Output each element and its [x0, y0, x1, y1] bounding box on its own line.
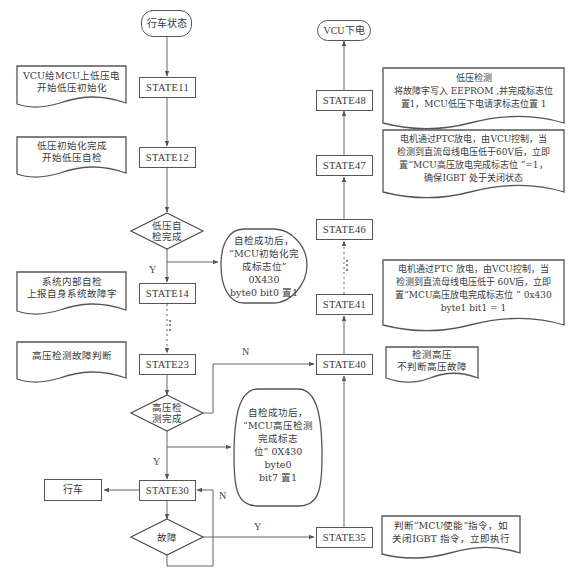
edge-label-fault-no: N [219, 490, 226, 501]
note-state47-line3: 置“MCU高压放电完成标志位 ”=1， [399, 159, 547, 172]
decision-fault: 故障 [137, 519, 197, 555]
state-47-label: STATE47 [323, 160, 366, 172]
drive-box: 行车 [44, 479, 102, 501]
end-terminal: VCU下电 [317, 20, 371, 41]
state-23: STATE23 [139, 354, 196, 375]
state-30-label: STATE30 [146, 485, 189, 497]
edge-label-fault-yes: Y [254, 521, 261, 532]
note-hv-line5: bit7 置1 [259, 471, 297, 484]
note-state41-line1: 电机通过PTC 放电，由VCU控制，当 [398, 263, 549, 276]
state-48-label: STATE48 [323, 95, 366, 107]
start-label: 行车状态 [147, 18, 187, 30]
state-30: STATE30 [139, 480, 196, 501]
note-lv-line1: 自检成功后， [234, 234, 294, 247]
note-hv-line2: “MCU高压检测 [243, 419, 313, 432]
edge-label-hv-no: N [242, 346, 249, 357]
note-state23: 高压检测故障判断 [17, 342, 126, 370]
note-state14-line1: 系统内部自检 [42, 276, 102, 288]
note-state35: 判断“MCU使能”指令，如 关闭IGBT 指令，立即执行 [382, 516, 520, 548]
note-state11: VCU给MCU上低压电 开始低压初始化 [17, 66, 126, 98]
state-35: STATE35 [316, 527, 373, 548]
decision-hv-line2: 测完成 [152, 413, 182, 424]
drive-label: 行车 [63, 484, 83, 496]
note-state14: 系统内部自检 上报自身系统故障字 [17, 272, 126, 304]
state-11-label: STATE11 [146, 82, 189, 94]
state-40: STATE40 [316, 354, 373, 375]
note-lv-line4: byte0 bit0 置1 [230, 286, 298, 299]
note-state35-line1: 判断“MCU使能”指令，如 [394, 519, 509, 532]
note-state47-line2: 检测到直流母线电压低于60V后，立即 [397, 146, 550, 159]
note-state14-line2: 上报自身系统故障字 [27, 288, 117, 300]
end-label: VCU下电 [323, 25, 364, 37]
note-state12: 低压初始化完成 开始低压自检 [17, 137, 126, 167]
note-lv-success: 自检成功后， “MCU初始化完 成标志位” 0X430 byte0 bit0 置… [221, 232, 307, 300]
state-14-label: STATE14 [146, 288, 189, 300]
right-ellipsis: ⋮ [341, 258, 353, 273]
note-hv-line3: 完成标志 [258, 432, 298, 445]
state-11: STATE11 [139, 77, 196, 98]
note-state11-line2: 开始低压初始化 [37, 82, 107, 94]
note-state40: 检测高压 不判断高压故障 [386, 347, 478, 375]
note-state48-line3: 置1，MCU低压下电请求标志位置 1 [401, 98, 547, 111]
state-47: STATE47 [316, 155, 373, 176]
note-state48-line2: 将故障字写入 EEPROM ,并完成标志位 [394, 85, 553, 98]
decision-lv-line2: 检完成 [152, 231, 182, 242]
decision-hv-check: 高压检 测完成 [137, 395, 197, 431]
note-state12-line1: 低压初始化完成 [37, 140, 107, 152]
note-state40-line2: 不判断高压故障 [397, 361, 467, 373]
note-state48-line1: 低压检测 [456, 72, 492, 85]
left-ellipsis: ⋮ [164, 318, 176, 333]
decision-hv-line1: 高压检 [152, 402, 182, 413]
edge-label-hv-yes: Y [153, 456, 160, 467]
note-hv-line4: 位” 0X430 byte0 [240, 445, 316, 471]
note-state48: 低压检测 将故障字写入 EEPROM ,并完成标志位 置1，MCU低压下电请求标… [383, 69, 564, 113]
edge-label-lv-yes: Y [149, 264, 156, 275]
state-23-label: STATE23 [146, 359, 189, 371]
note-state41-line2: 检测到直流母线电压低于 60V后，立即 [396, 276, 552, 289]
note-state40-line1: 检测高压 [412, 349, 452, 361]
state-14: STATE14 [139, 283, 196, 304]
note-state41-line3: 置“MCU高压放电完成标志位 ” 0x430 [395, 289, 552, 302]
note-state47: 电机通过PTC放电，由VCU控制，当 检测到直流母线电压低于60V后，立即 置“… [383, 131, 564, 186]
state-48: STATE48 [316, 90, 373, 111]
state-12-label: STATE12 [146, 152, 189, 164]
state-41: STATE41 [316, 294, 373, 315]
note-hv-success: 自检成功后， “MCU高压检测 完成标志 位” 0X430 byte0 bit7… [234, 400, 322, 490]
note-state23-line1: 高压检测故障判断 [32, 350, 112, 362]
decision-fault-label: 故障 [157, 532, 177, 543]
decision-lv-line1: 低压自 [152, 220, 182, 231]
note-state47-line4: 确保IGBT 处于关闭状态 [424, 172, 522, 185]
decision-lv-check: 低压自 检完成 [137, 213, 197, 249]
note-state12-line2: 开始低压自检 [42, 152, 102, 164]
note-state35-line2: 关闭IGBT 指令，立即执行 [392, 532, 510, 545]
note-hv-line1: 自检成功后， [248, 406, 308, 419]
note-state11-line1: VCU给MCU上低压电 [23, 70, 120, 82]
state-41-label: STATE41 [323, 299, 366, 311]
state-35-label: STATE35 [323, 532, 366, 544]
note-lv-line3: 成标志位” 0X430 [227, 260, 301, 286]
state-46: STATE46 [316, 219, 373, 240]
note-state47-line1: 电机通过PTC放电，由VCU控制，当 [400, 133, 548, 146]
start-terminal: 行车状态 [141, 10, 192, 37]
state-46-label: STATE46 [323, 224, 366, 236]
state-40-label: STATE40 [323, 359, 366, 371]
note-lv-line2: “MCU初始化完 [229, 247, 299, 260]
note-state41-line4: byte1 bit1 = 1 [441, 302, 506, 315]
state-12: STATE12 [139, 147, 196, 168]
note-state41: 电机通过PTC 放电，由VCU控制，当 检测到直流母线电压低于 60V后，立即 … [383, 261, 564, 317]
